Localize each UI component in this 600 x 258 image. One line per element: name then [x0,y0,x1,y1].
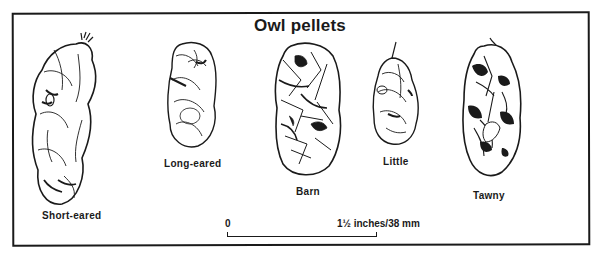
tawny-pellet-icon [458,36,524,182]
scale-start-label: 0 [225,218,231,229]
scale-end-label: 1½ inches/38 mm [337,218,420,229]
little-label: Little [383,156,409,167]
barn-pellet-icon [271,40,343,180]
scale-bar [227,232,377,237]
short-eared-pellet-icon [24,30,104,210]
barn-label: Barn [296,186,320,197]
little-pellet-icon [368,40,424,150]
long-eared-pellet-icon [164,40,220,150]
long-eared-label: Long-eared [164,158,221,169]
short-eared-label: Short-eared [42,210,101,221]
tawny-label: Tawny [473,190,505,201]
